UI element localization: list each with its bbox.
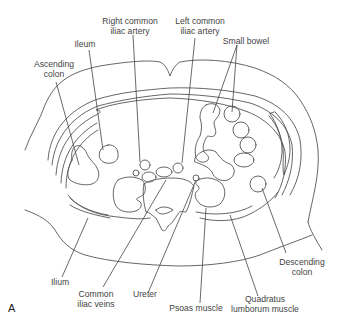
label-common-iliac-veins: Common <box>79 289 114 299</box>
label-ileum: Ileum <box>74 39 95 49</box>
labels: Right common iliac artery Left common il… <box>8 16 325 314</box>
panel-label: A <box>8 302 16 314</box>
abdominal-wall-layers <box>48 88 301 221</box>
label-ureter: Ureter <box>133 289 157 299</box>
svg-text:iliac artery: iliac artery <box>180 26 220 36</box>
label-ilium: Ilium <box>51 277 69 287</box>
label-small-bowel: Small bowel <box>223 36 269 46</box>
right-psoas-shape <box>113 177 145 212</box>
label-quadratus-lumborum-muscle: Quadratus <box>245 294 285 304</box>
label-descending-colon: Descending <box>279 257 325 267</box>
vertebra-shape <box>143 178 194 231</box>
body-outline <box>25 60 322 266</box>
label-ascending-colon: Ascending <box>34 59 74 69</box>
ascending-colon-shape <box>68 146 99 185</box>
right-iliac-artery-shape <box>140 160 150 170</box>
svg-text:lumborum muscle: lumborum muscle <box>231 304 299 314</box>
svg-text:colon: colon <box>44 69 65 79</box>
left-psoas-shape <box>195 178 225 207</box>
ileum-shape <box>99 145 118 163</box>
descending-colon-shape <box>250 176 266 192</box>
label-psoas-muscle: Psoas muscle <box>169 303 223 313</box>
common-iliac-veins-shape <box>142 172 156 182</box>
label-left-common-iliac-artery: Left common <box>175 16 225 26</box>
label-right-common-iliac-artery: Right common <box>102 16 158 26</box>
anatomical-cross-section-diagram: Right common iliac artery Left common il… <box>0 0 345 333</box>
svg-text:colon: colon <box>292 267 313 277</box>
svg-text:iliac veins: iliac veins <box>77 299 114 309</box>
svg-text:iliac artery: iliac artery <box>110 26 150 36</box>
left-iliac-artery-shape <box>173 163 183 173</box>
